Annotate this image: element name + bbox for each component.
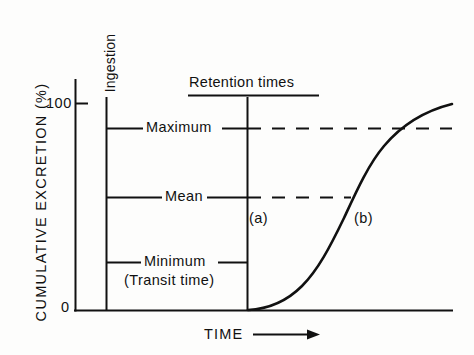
- mean-retention-label: Mean: [165, 188, 203, 204]
- minimum-retention-label: Minimum: [144, 253, 206, 269]
- maximum-retention-label: Maximum: [146, 119, 212, 135]
- y-tick-label-100: 100: [46, 95, 72, 111]
- cumulative-excretion-curve: [248, 104, 452, 310]
- retention-times-title: Retention times: [189, 74, 294, 90]
- time-arrow-icon: [253, 330, 320, 340]
- chart-canvas: [0, 0, 474, 355]
- excretion-retention-time-figure: CUMULATIVE EXCRETION (%) 100 0 Ingestion…: [0, 0, 474, 355]
- transit-time-label: (Transit time): [124, 272, 214, 288]
- curve-b-label: (b): [354, 210, 373, 226]
- x-axis-title: TIME: [204, 326, 243, 342]
- y-tick-label-0: 0: [61, 299, 69, 315]
- ingestion-label: Ingestion: [102, 13, 118, 113]
- marker-a-label: (a): [249, 210, 268, 226]
- y-axis-title: CUMULATIVE EXCRETION (%): [33, 77, 49, 327]
